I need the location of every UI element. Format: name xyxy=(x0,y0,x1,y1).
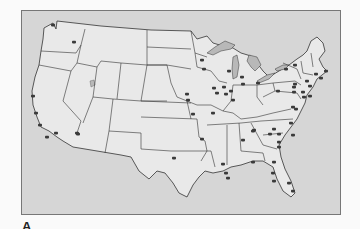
location-dot xyxy=(308,85,312,88)
location-dot xyxy=(226,177,230,180)
location-dot xyxy=(186,99,190,102)
location-dot xyxy=(277,146,281,149)
location-dot xyxy=(308,95,312,98)
location-dot xyxy=(268,133,272,136)
location-dot xyxy=(76,133,80,136)
location-dot xyxy=(284,68,288,71)
location-dot xyxy=(302,96,306,99)
location-dot xyxy=(54,132,58,135)
location-dot xyxy=(271,172,275,175)
location-dot xyxy=(272,161,276,164)
location-dot xyxy=(202,68,206,71)
location-dot xyxy=(224,172,228,175)
location-dot xyxy=(289,122,293,125)
panel-label: A xyxy=(22,220,31,229)
location-dot xyxy=(211,112,215,115)
location-dot xyxy=(215,92,219,95)
location-dot xyxy=(191,113,195,116)
location-dot xyxy=(227,70,231,73)
location-dot xyxy=(301,91,305,94)
location-dot xyxy=(314,73,318,76)
location-dot xyxy=(34,112,38,115)
location-dot xyxy=(251,161,255,164)
location-dot xyxy=(241,139,245,142)
location-dot xyxy=(240,76,244,79)
location-dot xyxy=(72,41,76,44)
location-dot xyxy=(51,24,55,27)
location-dot xyxy=(38,124,42,127)
location-dot xyxy=(277,141,281,144)
location-dot xyxy=(256,82,260,85)
location-dot xyxy=(200,138,204,141)
map-frame xyxy=(21,10,341,215)
location-dot xyxy=(324,70,328,73)
location-dot xyxy=(241,83,245,86)
location-dot xyxy=(272,128,276,131)
us-map xyxy=(22,11,341,215)
location-dot xyxy=(277,133,281,136)
location-dot xyxy=(292,91,296,94)
location-dot xyxy=(221,163,225,166)
location-dot xyxy=(229,90,233,93)
location-dot xyxy=(200,59,204,62)
location-dot xyxy=(291,190,295,193)
location-dot xyxy=(293,83,297,86)
location-dot xyxy=(185,93,189,96)
location-dot xyxy=(272,180,276,183)
location-dot xyxy=(287,182,291,185)
location-dot xyxy=(172,157,176,160)
location-dot xyxy=(224,93,228,96)
location-dot xyxy=(222,86,226,89)
location-dot xyxy=(231,99,235,102)
location-dot xyxy=(291,134,295,137)
location-dot xyxy=(251,130,255,133)
location-dot xyxy=(276,90,280,93)
location-dot xyxy=(292,86,296,89)
location-dot xyxy=(31,95,35,98)
location-dot xyxy=(212,87,216,90)
location-dot xyxy=(305,80,309,83)
location-dot xyxy=(294,108,298,111)
location-dot xyxy=(45,136,49,139)
location-dot xyxy=(319,77,323,80)
location-dot xyxy=(293,64,297,67)
us-landmass xyxy=(32,21,327,197)
